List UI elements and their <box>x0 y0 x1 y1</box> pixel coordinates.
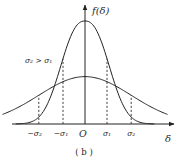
sigma-comparison-annotation: σ₂ > σ₁ <box>25 56 52 65</box>
x-axis-label: δ <box>165 133 171 144</box>
figure-caption: ( b ) <box>75 147 92 157</box>
tick-label-sigma2: σ₂ <box>127 129 135 138</box>
normal-distribution-figure: f(δ) δ σ₂ > σ₁ ( b ) −σ₂−σ₁Oσ₁σ₂ <box>0 0 181 162</box>
tick-label-neg-sigma2: −σ₂ <box>28 129 42 138</box>
tick-label-sigma1: σ₁ <box>103 129 111 138</box>
y-axis-label: f(δ) <box>91 5 110 16</box>
tick-label-origin: O <box>79 128 87 139</box>
tick-label-neg-sigma1: −σ₁ <box>54 129 68 138</box>
